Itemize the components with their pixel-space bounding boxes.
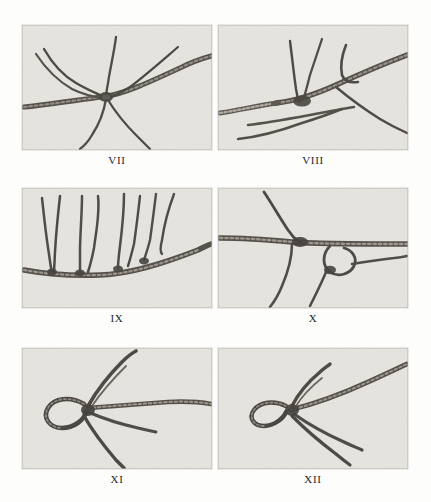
plate-cell-vii: VII: [22, 25, 212, 175]
plate-caption-viii: VIII: [218, 154, 408, 166]
rope-illustration-xi: [22, 348, 212, 469]
plate-caption-x: X: [218, 312, 408, 324]
rope-illustration-xii: [218, 348, 408, 469]
plate-cell-xi: XI: [22, 348, 212, 494]
plate-caption-vii: VII: [22, 154, 212, 166]
plate-cell-ix: IX: [22, 188, 212, 333]
plate-image-viii: [218, 25, 408, 150]
plate-caption-xii: XII: [218, 473, 408, 485]
plate-cell-xii: XII: [218, 348, 408, 494]
rope-illustration-ix: [22, 188, 212, 308]
plate-image-ix: [22, 188, 212, 308]
plate-image-vii: [22, 25, 212, 150]
plate-image-x: [218, 188, 408, 308]
plate-image-xii: [218, 348, 408, 469]
plate-cell-viii: VIII: [218, 25, 408, 175]
plate-caption-xi: XI: [22, 473, 212, 485]
plate-caption-ix: IX: [22, 312, 212, 324]
plate-image-xi: [22, 348, 212, 469]
rope-illustration-x: [218, 188, 408, 308]
plate-cell-x: X: [218, 188, 408, 333]
plate-page: VII: [0, 0, 431, 502]
rope-illustration-vii: [22, 25, 212, 150]
rope-illustration-viii: [218, 25, 408, 150]
